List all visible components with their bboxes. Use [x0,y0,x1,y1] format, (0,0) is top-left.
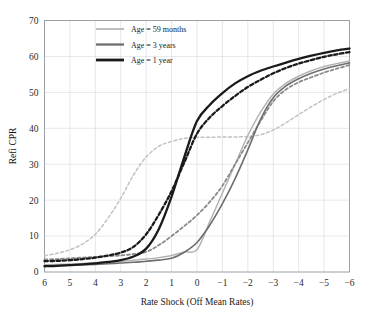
y-axis-title: Refi CPR [8,127,18,164]
y-tick-70: 70 [29,16,39,26]
refi-cpr-line-chart: 010203040506070 6543210−1−2−3−4−5−6 Age … [0,0,371,324]
x-axis-title: Rate Shock (Off Mean Rates) [141,297,254,308]
chart-legend: Age = 59 monthsAge = 3 yearsAge = 1 year [96,25,186,65]
x-tick--1: −1 [217,278,227,288]
x-axis-tick-labels: 6543210−1−2−3−4−5−6 [42,278,355,288]
legend-label-0: Age = 59 months [131,25,186,34]
x-tick--5: −5 [319,278,329,288]
y-tick-20: 20 [29,196,39,206]
y-tick-0: 0 [34,267,39,277]
x-tick-4: 4 [93,278,98,288]
chart-figure: 010203040506070 6543210−1−2−3−4−5−6 Age … [0,0,371,324]
y-tick-10: 10 [29,231,39,241]
x-tick--3: −3 [268,278,278,288]
x-tick--4: −4 [294,278,304,288]
y-tick-30: 30 [29,160,39,170]
x-tick-0: 0 [195,278,200,288]
x-tick-2: 2 [144,278,149,288]
x-tick-3: 3 [118,278,123,288]
y-tick-40: 40 [29,124,39,134]
y-axis-tick-labels: 010203040506070 [29,16,39,278]
y-tick-50: 50 [29,88,39,98]
y-tick-60: 60 [29,52,39,62]
x-tick-5: 5 [68,278,73,288]
legend-label-2: Age = 1 year [131,56,173,65]
x-tick--6: −6 [344,278,354,288]
x-tick--2: −2 [243,278,253,288]
x-tick-1: 1 [169,278,174,288]
legend-label-1: Age = 3 years [131,41,176,50]
x-tick-6: 6 [42,278,47,288]
